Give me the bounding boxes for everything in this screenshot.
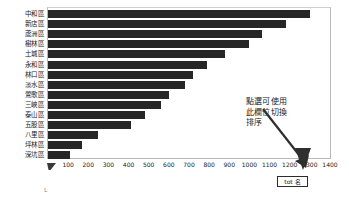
bar: [48, 50, 225, 58]
bar-container: [48, 100, 161, 110]
bar-container: [48, 60, 207, 70]
x-tick-label: 600: [163, 160, 174, 170]
bar: [48, 30, 262, 38]
category-label: 蘆洲區: [1, 29, 47, 39]
category-label: 三峽區: [1, 100, 47, 110]
sort-field-button[interactable]: tot 名: [277, 176, 308, 187]
bar: [48, 101, 161, 109]
bar: [48, 40, 249, 48]
bar-row: 淡水區: [0, 80, 349, 90]
category-label: 中和區: [1, 9, 47, 19]
category-label: 樹林區: [1, 39, 47, 49]
category-label: 泰山區: [1, 110, 47, 120]
bar-row: 新店區: [0, 19, 349, 29]
bar-container: [48, 130, 98, 140]
bar-row: 中和區: [0, 9, 349, 19]
bar: [48, 141, 82, 149]
category-label: 土城區: [1, 49, 47, 59]
bar-row: 蘆洲區: [0, 29, 349, 39]
down-arrow-icon: [262, 108, 324, 174]
category-label: 淡水區: [1, 80, 47, 90]
x-tick-label: 1400: [322, 160, 337, 170]
category-label: 坪林區: [1, 140, 47, 150]
category-label: 八里區: [1, 130, 47, 140]
bar: [48, 81, 185, 89]
category-label: 新店區: [1, 19, 47, 29]
bar: [48, 61, 207, 69]
category-label: 五股區: [1, 120, 47, 130]
bar: [48, 111, 145, 119]
bar: [48, 10, 310, 18]
bar-row: 土城區: [0, 49, 349, 59]
bar-container: [48, 110, 145, 120]
category-label: 深坑區: [1, 150, 47, 160]
bar-row: 永和區: [0, 60, 349, 70]
bar-container: [48, 29, 262, 39]
category-label: 林口區: [1, 70, 47, 80]
x-tick-label: 800: [203, 160, 214, 170]
x-tick-label: 200: [83, 160, 94, 170]
x-tick-label: 100: [62, 160, 73, 170]
bar-container: [48, 140, 82, 150]
bar: [48, 91, 169, 99]
bar: [48, 20, 286, 28]
x-tick-label: 700: [183, 160, 194, 170]
annotation-line-1: 點選可使用: [246, 97, 320, 108]
x-tick-label: 400: [123, 160, 134, 170]
bar-container: [48, 49, 225, 59]
bar-container: [48, 90, 169, 100]
chart-screenshot: 中和區新店區蘆洲區樹林區土城區永和區林口區淡水區鶯歌區三峽區泰山區五股區八里區坪…: [0, 0, 349, 206]
x-tick-label: 1000: [242, 160, 257, 170]
x-tick-label: 300: [103, 160, 114, 170]
bar-container: [48, 80, 185, 90]
bar-container: [48, 120, 131, 130]
category-label: 永和區: [1, 60, 47, 70]
bar-row: 樹林區: [0, 39, 349, 49]
bar-container: [48, 19, 286, 29]
bar-container: [48, 9, 310, 19]
x-tick-label: 900: [224, 160, 235, 170]
bar: [48, 121, 131, 129]
bar-container: [48, 70, 193, 80]
x-tick-label: 500: [143, 160, 154, 170]
bar-container: [48, 39, 249, 49]
category-label: 鶯歌區: [1, 90, 47, 100]
bar: [48, 71, 193, 79]
bar: [48, 131, 98, 139]
bar-row: 林口區: [0, 70, 349, 80]
axis-corner-mark: L: [44, 186, 47, 193]
